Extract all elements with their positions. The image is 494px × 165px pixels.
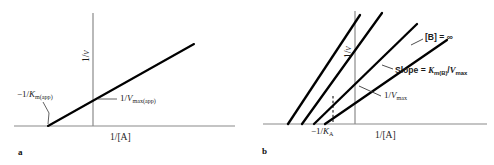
panel-b: 1/v 1/[A] [B] = ∞ Slope = Km(B)/Vmax 1/V… [247, 0, 494, 165]
panel-b-plot [247, 0, 494, 165]
slope-label: Slope = Km(B)/Vmax [395, 66, 467, 75]
panel-a: 1/v 1/[A] −1/Km(app) 1/Vmax(app) a [0, 0, 247, 165]
figure-container: 1/v 1/[A] −1/Km(app) 1/Vmax(app) a [0, 0, 494, 165]
y-intercept-label: 1/Vmax(app) [120, 94, 156, 103]
y-intercept-label: 1/Vmax [384, 91, 407, 100]
panel-letter-b: b [262, 147, 267, 156]
data-line-apparent [48, 44, 194, 126]
x-intercept-label: −1/Km(app) [17, 90, 53, 99]
panel-letter-a: a [18, 148, 23, 157]
y-axis-label: 1/v [344, 46, 354, 58]
leader-slope [382, 65, 393, 69]
x-axis-label: 1/[A] [110, 133, 131, 143]
y-axis-label: 1/v [82, 50, 92, 62]
leader-x-intercept [43, 102, 49, 124]
infinite-b-label: [B] = ∞ [425, 33, 453, 42]
leader-infinite-B [411, 39, 423, 45]
x-axis-label: 1/[A] [375, 131, 396, 141]
x-intercept-label: −1/KA [311, 127, 334, 136]
